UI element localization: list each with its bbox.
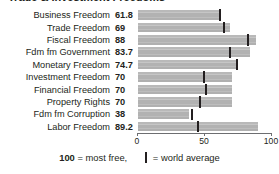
bar-row-value: 70 — [110, 97, 138, 107]
world-average-marker — [205, 84, 207, 95]
value-bar — [138, 10, 221, 20]
bar-plot-area — [138, 59, 272, 71]
bar-row: Trade Freedom69 — [0, 21, 279, 33]
bar-row-value: 69 — [110, 23, 138, 33]
world-average-marker — [199, 96, 201, 107]
bar-row: Business Freedom61.8 — [0, 9, 279, 21]
axis-tick-label: 100 — [264, 137, 278, 146]
legend-most-free-number: 100 — [59, 152, 75, 163]
bar-row-label: Business Freedom — [0, 10, 110, 20]
bar-row: Labor Freedom89.2 — [0, 121, 279, 133]
bar-row-value: 74.7 — [110, 60, 138, 70]
value-bar — [138, 85, 232, 95]
bar-row: Fdm fm Government83.7 — [0, 46, 279, 58]
bar-row-label: Property Rights — [0, 97, 110, 107]
value-bar — [138, 23, 230, 33]
bar-row: Monetary Freedom74.7 — [0, 59, 279, 71]
bar-plot-area — [138, 108, 272, 120]
value-bar — [138, 109, 189, 119]
world-average-marker — [247, 34, 249, 45]
bar-plot-area — [138, 121, 272, 133]
bar-row: Fdm fm Corruption38 — [0, 108, 279, 120]
bar-row: Financial Freedom70 — [0, 83, 279, 95]
world-average-marker — [219, 9, 221, 20]
legend-most-free: 100 = most free, — [59, 152, 145, 164]
bar-row-label: Trade Freedom — [0, 23, 110, 33]
bar-row-value: 88 — [110, 35, 138, 45]
bar-row: Investment Freedom70 — [0, 71, 279, 83]
bar-row-label: Fiscal Freedom — [0, 35, 110, 45]
bar-rows-container: Business Freedom61.8Trade Freedom69Fisca… — [0, 9, 279, 133]
axis-tick-label: 50 — [199, 137, 209, 146]
bar-row-value: 38 — [110, 109, 138, 119]
value-bar — [138, 35, 256, 45]
bar-row-value: 70 — [110, 85, 138, 95]
world-average-marker — [197, 121, 199, 132]
bar-row-label: Monetary Freedom — [0, 60, 110, 70]
legend-world-average: = world average — [145, 152, 220, 164]
bar-row: Fiscal Freedom88 — [0, 34, 279, 46]
bar-plot-area — [138, 34, 272, 46]
bar-plot-area — [138, 83, 272, 95]
bar-row-label: Investment Freedom — [0, 72, 110, 82]
bar-row-value: 70 — [110, 72, 138, 82]
legend-most-free-text: = most free, — [75, 152, 127, 163]
bar-row-value: 89.2 — [110, 122, 138, 132]
vertical-bar-icon — [145, 152, 147, 163]
world-average-marker — [236, 59, 238, 70]
axis-tick-label: 0 — [135, 137, 140, 146]
bar-plot-area — [138, 71, 272, 83]
value-bar — [138, 60, 238, 70]
chart-legend: 100 = most free, = world average — [0, 152, 279, 164]
bar-row: Property Rights70 — [0, 96, 279, 108]
bar-plot-area — [138, 96, 272, 108]
world-average-marker — [223, 22, 225, 33]
bar-row-label: Labor Freedom — [0, 122, 110, 132]
bar-row-label: Fdm fm Corruption — [0, 109, 110, 119]
legend-world-average-text: = world average — [150, 152, 220, 163]
value-bar — [138, 97, 232, 107]
bar-row-value: 83.7 — [110, 47, 138, 57]
bar-row-label: Fdm fm Government — [0, 47, 110, 57]
value-bar — [138, 47, 250, 57]
value-bar — [138, 72, 232, 82]
world-average-marker — [203, 71, 205, 82]
bar-row-value: 61.8 — [110, 10, 138, 20]
bar-plot-area — [138, 46, 272, 58]
page-title: Trade & Investment Freedoms — [8, 0, 248, 3]
world-average-marker — [229, 47, 231, 58]
bar-plot-area — [138, 21, 272, 33]
world-average-marker — [191, 109, 193, 120]
bar-row-label: Financial Freedom — [0, 85, 110, 95]
bar-plot-area — [138, 9, 272, 21]
